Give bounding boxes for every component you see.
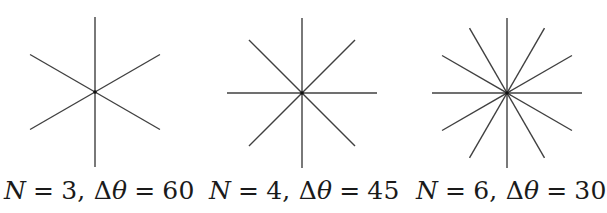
- equals: =: [134, 176, 155, 205]
- star-n4: [227, 18, 377, 168]
- theta-symbol: θ: [112, 176, 127, 205]
- n-symbol: N: [4, 176, 26, 205]
- comma: ,: [489, 176, 497, 205]
- caption-n6: N=6, Δθ=30: [416, 176, 607, 205]
- delta-symbol: Δ: [506, 176, 524, 205]
- star-n6: [432, 18, 582, 168]
- equals: =: [33, 176, 54, 205]
- n-symbol: N: [209, 176, 231, 205]
- delta-theta-value: 30: [574, 176, 606, 205]
- star-center-dot: [93, 90, 97, 94]
- delta-symbol: Δ: [94, 176, 112, 205]
- delta-symbol: Δ: [299, 176, 317, 205]
- equals: =: [445, 176, 466, 205]
- caption-n3: N=3, Δθ=60: [4, 176, 195, 205]
- n-value: 4: [266, 176, 282, 205]
- caption-n4: N=4, Δθ=45: [209, 176, 400, 205]
- n-symbol: N: [416, 176, 438, 205]
- equals: =: [339, 176, 360, 205]
- equals: =: [238, 176, 259, 205]
- star-diagrams: [0, 0, 599, 180]
- delta-theta-value: 60: [162, 176, 194, 205]
- delta-theta-value: 45: [367, 176, 399, 205]
- star-center-dot: [300, 91, 304, 95]
- n-value: 6: [473, 176, 489, 205]
- theta-symbol: θ: [524, 176, 539, 205]
- theta-symbol: θ: [317, 176, 332, 205]
- comma: ,: [282, 176, 290, 205]
- equals: =: [546, 176, 567, 205]
- star-center-dot: [505, 91, 509, 95]
- n-value: 3: [61, 176, 77, 205]
- comma: ,: [77, 176, 85, 205]
- star-n3: [30, 17, 160, 167]
